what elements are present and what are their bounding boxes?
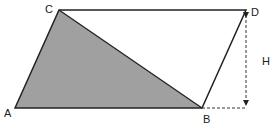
shaded-triangle-acb [15,10,202,108]
point-label-b: B [203,113,210,124]
point-label-d: D [251,6,259,18]
point-label-c: C [45,3,53,15]
height-label-h: H [262,55,270,67]
parallelogram-diagram: C D A B H [0,0,274,124]
point-label-a: A [4,107,12,119]
